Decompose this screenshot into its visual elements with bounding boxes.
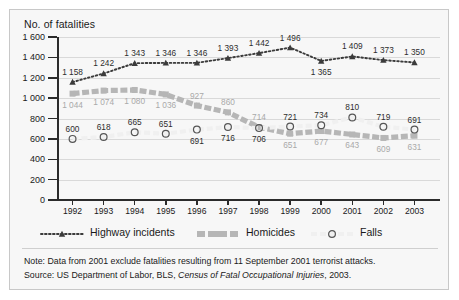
x-axis-tick-label: 1993 — [94, 206, 113, 216]
x-axis-tick-label: 2001 — [343, 206, 362, 216]
x-axis-tick — [227, 200, 229, 205]
data-point-label: 734 — [314, 110, 328, 120]
x-axis-tick-label: 1994 — [125, 206, 144, 216]
y-axis-tick-label: 1 200 — [22, 73, 45, 83]
x-axis-tick — [414, 200, 416, 205]
data-point-label: 719 — [376, 112, 390, 122]
note-text: Data from 2001 exclude fatalities result… — [47, 256, 375, 266]
data-point-label: 691 — [408, 115, 422, 125]
x-axis-tick-label: 2003 — [405, 206, 424, 216]
y-axis: 02004006008001 0001 2001 4001 600 — [10, 10, 57, 222]
dotted-circle-series-icon — [310, 226, 354, 238]
legend-item-label: Falls — [360, 226, 382, 238]
dashed-square-series-icon — [196, 226, 240, 238]
y-axis-tick — [48, 97, 57, 99]
x-axis-tick-label: 1998 — [249, 206, 268, 216]
data-point-label: 1 242 — [93, 58, 114, 68]
legend-item-label: Highway incidents — [90, 226, 175, 238]
data-point-label: 651 — [159, 119, 173, 129]
x-axis-tick-label: 1995 — [156, 206, 175, 216]
data-point-label: 714 — [252, 112, 266, 122]
source-italic-title: Census of Fatal Occupational Injuries — [178, 270, 324, 280]
data-point-label: 721 — [283, 112, 297, 122]
x-axis-tick-label: 1992 — [63, 206, 82, 216]
x-axis-tick — [289, 200, 291, 205]
chart-legend: Highway incidentsHomicidesFalls — [10, 219, 450, 245]
screenshot-root: No. of fatalities 02004006008001 0001 20… — [0, 0, 459, 300]
data-point-label: 643 — [345, 140, 359, 150]
y-axis-tick — [48, 159, 57, 161]
data-point-label: 1 343 — [124, 48, 145, 58]
data-point-label: 1 393 — [218, 43, 239, 53]
legend-item-homicides[interactable]: Homicides — [196, 219, 295, 245]
data-point-label: 1 365 — [311, 67, 332, 77]
data-point-label: 1 409 — [342, 41, 363, 51]
footnote-divider — [22, 248, 438, 249]
y-axis-tick — [48, 138, 57, 140]
x-axis-tick-label: 1997 — [218, 206, 237, 216]
note-prefix: Note: — [24, 256, 47, 266]
source-post-italic: , 2003. — [324, 270, 351, 280]
x-axis-tick — [352, 200, 354, 205]
legend-item-label: Homicides — [246, 226, 295, 238]
legend-item-highway-incidents[interactable]: Highway incidents — [40, 219, 175, 245]
x-axis-tick — [383, 200, 385, 205]
x-axis-tick — [196, 200, 198, 205]
y-axis-tick — [48, 36, 57, 38]
y-axis-tick — [48, 57, 57, 59]
y-axis-tick-label: 400 — [30, 154, 45, 164]
data-point-label: 665 — [128, 117, 142, 127]
x-axis-tick — [134, 200, 136, 205]
x-axis-tick — [258, 200, 260, 205]
source-pre-italic: US Department of Labor, BLS, — [57, 270, 178, 280]
y-axis-tick-label: 0 — [40, 195, 45, 205]
y-axis-tick-label: 800 — [30, 114, 45, 124]
y-axis-tick — [48, 77, 57, 79]
data-point-label: 1 080 — [124, 96, 145, 106]
x-axis-tick-label: 2000 — [312, 206, 331, 216]
y-axis-tick — [48, 118, 57, 120]
data-point-label: 1 373 — [373, 45, 394, 55]
data-point-label: 810 — [345, 102, 359, 112]
data-point-label: 1 350 — [404, 47, 425, 57]
data-point-label: 618 — [97, 122, 111, 132]
dotted-triangle-series-icon — [40, 226, 84, 238]
data-point-label: 1 496 — [280, 33, 301, 43]
chart-area: No. of fatalities 02004006008001 0001 20… — [10, 10, 450, 222]
y-axis-tick-label: 1 600 — [22, 32, 45, 42]
data-point-label: 691 — [190, 136, 204, 146]
y-axis-tick — [48, 199, 57, 201]
source-prefix: Source: — [24, 270, 57, 280]
y-axis-tick-label: 600 — [30, 134, 45, 144]
x-axis-tick — [320, 200, 322, 205]
data-point-label: 1 044 — [62, 100, 83, 110]
data-point-label: 716 — [221, 133, 235, 143]
x-axis-tick — [103, 200, 105, 205]
x-axis-tick-label: 2002 — [374, 206, 393, 216]
y-axis-tick-label: 200 — [30, 175, 45, 185]
footnotes: Note: Data from 2001 exclude fatalities … — [24, 255, 442, 282]
source-line: Source: US Department of Labor, BLS, Cen… — [24, 269, 442, 283]
data-point-label: 609 — [376, 144, 390, 154]
data-point-label: 706 — [252, 134, 266, 144]
y-axis-tick-label: 1 000 — [22, 93, 45, 103]
y-axis-tick — [48, 179, 57, 181]
data-point-label: 677 — [314, 137, 328, 147]
data-point-label: 1 442 — [249, 38, 270, 48]
legend-item-falls[interactable]: Falls — [310, 219, 382, 245]
x-axis-tick-label: 1999 — [281, 206, 300, 216]
note-line: Note: Data from 2001 exclude fatalities … — [24, 255, 442, 269]
x-axis-tick — [165, 200, 167, 205]
x-axis-tick-label: 1996 — [187, 206, 206, 216]
data-point-label: 651 — [283, 140, 297, 150]
data-point-label: 1 346 — [155, 48, 176, 58]
data-point-label: 1 036 — [155, 100, 176, 110]
data-point-label: 860 — [221, 97, 235, 107]
y-axis-tick-label: 1 400 — [22, 52, 45, 62]
x-axis-tick — [72, 200, 74, 205]
chart-panel: No. of fatalities 02004006008001 0001 20… — [9, 9, 449, 290]
data-point-label: 1 346 — [186, 48, 207, 58]
data-point-label: 600 — [66, 124, 80, 134]
data-point-label: 927 — [190, 91, 204, 101]
data-point-label: 1 158 — [62, 67, 83, 77]
